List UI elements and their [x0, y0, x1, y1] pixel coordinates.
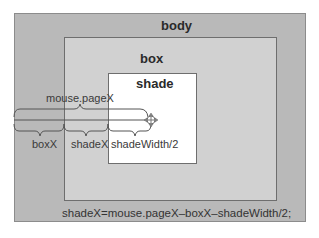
boxx-label: boxX [32, 138, 57, 150]
move-cursor-icon [144, 113, 158, 127]
measurement-braces [0, 0, 319, 238]
shade-half-width-label: shadeWidth/2 [111, 138, 178, 150]
shadex-label: shadeX [71, 138, 108, 150]
brace-mouse-pagex [14, 104, 148, 117]
brace-shade-half-width [108, 124, 151, 136]
formula-text: shadeX=mouse.pageX–boxX–shadeWidth/2; [62, 207, 291, 219]
mouse-pagex-label: mouse.pageX [46, 92, 114, 104]
brace-shadex [64, 124, 108, 136]
brace-boxx [14, 124, 64, 136]
